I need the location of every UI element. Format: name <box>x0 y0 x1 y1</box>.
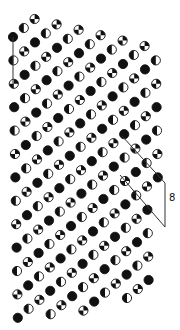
atom-quarter <box>66 198 75 207</box>
atom-half <box>56 277 65 286</box>
atom-black <box>78 259 87 268</box>
atom-half <box>132 191 141 200</box>
atom-quarter <box>140 41 149 50</box>
atom-half <box>63 34 72 43</box>
atom-half <box>141 88 150 97</box>
atom-black <box>121 200 130 209</box>
atom-quarter <box>43 122 52 131</box>
atom-half <box>45 239 54 248</box>
atom-quarter <box>89 274 98 283</box>
atom-black <box>56 254 65 263</box>
atom-half <box>23 234 32 243</box>
atom-half <box>121 223 130 232</box>
atom-half <box>66 175 75 184</box>
atom-black <box>153 173 162 182</box>
atom-black <box>110 232 119 241</box>
atom-black <box>34 248 43 257</box>
atom-quarter <box>100 241 109 250</box>
atom-half <box>133 261 142 270</box>
atom-black <box>30 38 39 47</box>
atom-black <box>20 70 29 79</box>
atom-half <box>12 266 21 275</box>
atom-quarter <box>64 58 73 67</box>
atom-half <box>67 245 76 254</box>
atom-black <box>144 275 153 284</box>
atom-black <box>140 65 149 74</box>
atom-quarter <box>98 171 107 180</box>
atom-half <box>99 218 108 227</box>
atom-quarter <box>30 14 39 23</box>
atom-half <box>119 83 128 92</box>
atom-quarter <box>42 52 51 61</box>
atom-half <box>41 29 50 38</box>
atom-quarter <box>65 128 74 137</box>
atom-quarter <box>22 187 31 196</box>
atom-quarter <box>35 295 44 304</box>
atom-black <box>52 43 61 52</box>
atom-black <box>11 173 20 182</box>
atom-quarter <box>110 209 119 218</box>
atom-black <box>12 243 21 252</box>
atom-quarter <box>44 193 53 202</box>
atom-black <box>22 211 31 220</box>
atom-quarter <box>109 139 118 148</box>
atom-half <box>97 77 106 86</box>
atom-quarter <box>152 79 161 88</box>
atom-quarter <box>52 20 61 29</box>
atom-half <box>77 212 86 221</box>
atom-half <box>107 45 116 54</box>
atom-black <box>100 265 109 274</box>
atom-half <box>152 126 161 135</box>
atom-black <box>42 76 51 85</box>
atom-half <box>85 40 94 49</box>
atom-black <box>68 292 77 301</box>
atom-quarter <box>86 63 95 72</box>
atom-half <box>129 50 138 59</box>
atom-half <box>33 202 42 211</box>
atom-black <box>64 81 73 90</box>
atom-quarter <box>9 79 18 88</box>
atom-half <box>78 283 87 292</box>
atom-black <box>96 54 105 63</box>
atom-black <box>131 167 140 176</box>
atom-quarter <box>118 36 127 45</box>
atom-black <box>66 221 75 230</box>
atom-half <box>76 142 85 151</box>
atom-quarter <box>53 90 62 99</box>
atom-black <box>108 92 117 101</box>
atom-black <box>13 313 22 322</box>
atom-quarter <box>79 306 88 315</box>
atom-quarter <box>76 166 85 175</box>
atom-black <box>130 97 139 106</box>
atom-quarter <box>20 47 29 56</box>
atom-black <box>21 140 30 149</box>
atom-black <box>122 270 131 279</box>
atom-half <box>64 104 73 113</box>
atom-quarter <box>23 257 32 266</box>
atom-quarter <box>133 284 142 293</box>
atom-half <box>53 67 62 76</box>
atom-half <box>19 23 28 32</box>
atom-black <box>90 297 99 306</box>
atom-quarter <box>32 155 41 164</box>
atom-half <box>34 272 43 281</box>
atom-quarter <box>144 252 153 261</box>
atom-lattice <box>8 14 162 322</box>
atom-black <box>118 59 127 68</box>
atom-quarter <box>74 25 83 34</box>
atom-quarter <box>75 95 84 104</box>
atom-half <box>86 110 95 119</box>
atom-black <box>152 103 161 112</box>
atom-half <box>143 229 152 238</box>
atom-black <box>99 194 108 203</box>
atom-half <box>46 310 55 319</box>
atom-half <box>110 185 119 194</box>
atom-half <box>42 99 51 108</box>
atom-black <box>120 130 129 139</box>
atom-quarter <box>153 149 162 158</box>
atom-quarter <box>78 236 87 245</box>
atom-half <box>100 288 109 297</box>
lattice-diagram: 8 <box>0 0 180 330</box>
atom-half <box>20 94 29 103</box>
atom-black <box>33 178 42 187</box>
